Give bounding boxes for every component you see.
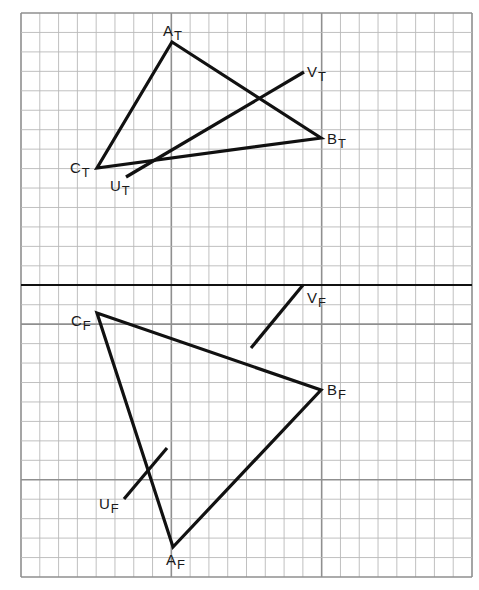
point-label-v-t: VT bbox=[307, 63, 326, 84]
point-label-b-t: BT bbox=[327, 130, 346, 151]
grid-paper bbox=[21, 13, 472, 577]
point-label-u-f: UF bbox=[99, 495, 119, 516]
line-u-front bbox=[124, 448, 167, 499]
point-label-v-f: VF bbox=[307, 289, 326, 310]
point-label-a-f: AF bbox=[166, 551, 185, 572]
point-label-c-t: CT bbox=[70, 159, 90, 180]
point-label-c-f: CF bbox=[71, 312, 91, 333]
point-label-u-t: UT bbox=[110, 177, 130, 198]
point-labels: ATBTCTUTVTAFBFCFUFVF bbox=[70, 22, 346, 572]
line-v-front bbox=[251, 285, 303, 348]
projection-diagram: ATBTCTUTVTAFBFCFUFVF bbox=[0, 0, 479, 590]
point-label-b-f: BF bbox=[327, 381, 346, 402]
diagram-canvas: ATBTCTUTVTAFBFCFUFVF bbox=[0, 0, 479, 590]
point-label-a-t: AT bbox=[163, 22, 182, 43]
